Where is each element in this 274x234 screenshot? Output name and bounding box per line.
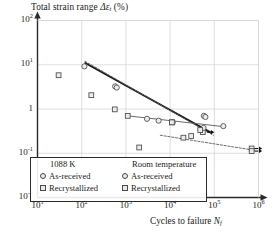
data-point-circle: [221, 124, 226, 129]
legend-square-icon: [119, 182, 130, 194]
data-point-circle: [114, 85, 119, 90]
legend-entry[interactable]: As-received: [37, 170, 98, 182]
legend-entry-label: As-received: [130, 170, 173, 182]
data-point-square: [56, 73, 61, 78]
fit-line-RT-asreceived-solid: [128, 116, 226, 127]
data-point-square: [89, 93, 94, 98]
legend-entry-label: Recrystallized: [48, 182, 98, 194]
legend-entry[interactable]: Recrystallized: [119, 182, 196, 194]
legend-heading: Room temperature: [119, 159, 196, 170]
legend-square-icon: [37, 182, 48, 194]
data-point-square: [170, 120, 175, 125]
legend-circle-icon: [119, 170, 130, 182]
fit-line-RT-recrystallized-dashed: [160, 135, 253, 150]
data-point-circle: [203, 114, 208, 119]
legend-circle-icon: [37, 170, 48, 182]
fit-line-1088K-dashed: [85, 61, 213, 135]
data-point-circle: [144, 116, 149, 121]
data-point-square: [112, 107, 117, 112]
legend-heading: 1088 K: [37, 159, 98, 170]
data-point-square: [125, 113, 130, 118]
fit-lines: [85, 61, 253, 150]
data-point-square: [249, 149, 254, 154]
legend-entry-label: Recrystallized: [130, 182, 180, 194]
figure-root: Total strain range Δεt (%) Cycles to fai…: [0, 0, 274, 234]
legend-column-room-temperature: Room temperatureAs-receivedRecrystallize…: [119, 159, 196, 194]
data-point-square: [181, 135, 186, 140]
y-axis-arrowhead: [34, 12, 40, 19]
legend-entry[interactable]: Recrystallized: [37, 182, 98, 194]
legend-column-1088k: 1088 KAs-receivedRecrystallized: [37, 159, 98, 194]
x-axis-arrowhead: [261, 194, 268, 200]
legend-entry[interactable]: As-received: [119, 170, 196, 182]
runout-arrow-mid-head: [211, 130, 214, 134]
data-point-square: [137, 145, 142, 150]
data-point-square: [198, 128, 203, 133]
legend-entry-label: As-received: [48, 170, 91, 182]
data-point-square: [189, 134, 194, 139]
data-point-circle: [82, 64, 87, 69]
legend: 1088 KAs-receivedRecrystallized Room tem…: [30, 157, 207, 202]
data-point-circle: [156, 118, 161, 123]
runout-arrow-bottom-right-head: [259, 149, 262, 153]
